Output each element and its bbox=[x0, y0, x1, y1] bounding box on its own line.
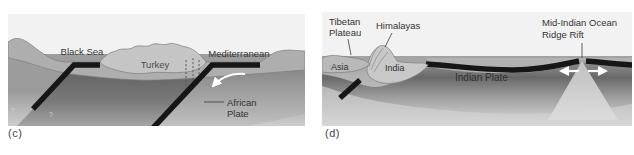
ridge-rift-label-line2: Ridge Rift bbox=[542, 29, 584, 40]
indian-plate-label: Indian Plate bbox=[455, 72, 508, 83]
mediterranean-label: Mediterranean bbox=[208, 48, 269, 59]
panel-d-identifier: (d) bbox=[325, 127, 340, 139]
figure-canvas: ? ? Black Sea Turkey Mediterranean Afric… bbox=[0, 0, 634, 155]
panel-c-identifier: (c) bbox=[8, 127, 22, 139]
panel-c-cross-section: ? ? Black Sea Turkey Mediterranean Afric… bbox=[8, 14, 305, 126]
panel-d-cross-section: Tibetan Plateau Himalayas Asia India Ind… bbox=[322, 12, 632, 126]
african-plate-label-line2: Plate bbox=[227, 108, 249, 119]
slab-question-mark: ? bbox=[11, 107, 15, 114]
himalayas-label: Himalayas bbox=[376, 20, 421, 31]
african-plate-label-line1: African bbox=[227, 97, 257, 108]
black-sea-label: Black Sea bbox=[61, 46, 104, 57]
asia-label: Asia bbox=[331, 62, 349, 72]
ridge-rift-label-line1: Mid-Indian Ocean bbox=[542, 17, 617, 28]
tibetan-plateau-label-line1: Tibetan bbox=[329, 16, 360, 27]
turkey-label: Turkey bbox=[141, 59, 170, 70]
slab-question-mark: ? bbox=[49, 111, 53, 118]
india-label: India bbox=[385, 63, 405, 73]
tibetan-plateau-label-line2: Plateau bbox=[329, 27, 361, 38]
